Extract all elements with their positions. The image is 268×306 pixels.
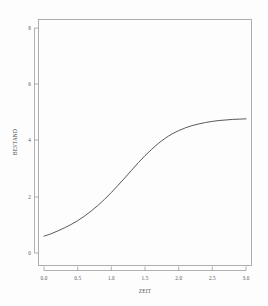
x-axis: 0.0 0.5 1.0 1.5 2.0 2.5 3.0 ZEIT	[41, 267, 250, 295]
x-tick-label: 3.0	[243, 275, 250, 281]
plot-frame	[39, 20, 252, 266]
x-tick-label: 2.0	[175, 275, 182, 281]
y-tick-label: 4	[28, 137, 31, 143]
x-tick-label: 1.5	[142, 275, 149, 281]
plot-canvas: 8 6 4 2 0 BESTAND 0.0 0.5 1.0 1.5 2.0 2.…	[0, 0, 268, 306]
x-tick-label: 0.0	[41, 275, 48, 281]
x-tick-label: 0.5	[74, 275, 81, 281]
chart-figure: 8 6 4 2 0 BESTAND 0.0 0.5 1.0 1.5 2.0 2.…	[0, 0, 268, 306]
data-series-line	[44, 119, 246, 236]
x-tick-label: 1.0	[108, 275, 115, 281]
y-tick-label: 6	[28, 81, 31, 87]
y-tick-label: 2	[28, 194, 31, 200]
x-axis-title: ZEIT	[139, 288, 152, 294]
y-axis-title: BESTAND	[12, 129, 18, 155]
y-tick-label: 0	[28, 250, 31, 256]
y-tick-label: 8	[28, 25, 31, 31]
x-tick-label: 2.5	[209, 275, 216, 281]
y-axis: 8 6 4 2 0 BESTAND	[12, 25, 39, 256]
